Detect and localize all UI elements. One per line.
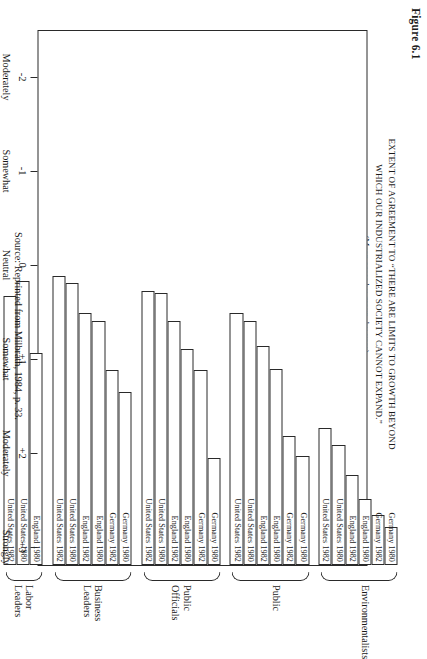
bar-label: England 1980 bbox=[358, 516, 371, 562]
group-brace bbox=[54, 572, 131, 581]
bar-label: Germany 1982 bbox=[371, 512, 384, 562]
bar-label: England 1980 bbox=[269, 516, 282, 562]
figure-title-line-2: WHICH OUR INDUSTRIALIZED SOCIETY CANNOT … bbox=[373, 164, 383, 424]
bar-label: United States 1982 bbox=[141, 499, 154, 562]
axis-tick-word: SomewhatAgree bbox=[0, 338, 11, 381]
axis-tick-word: Neutral bbox=[0, 250, 11, 281]
axis-tick-word: ModeratelyAgree bbox=[0, 430, 11, 477]
axis-tick bbox=[30, 547, 37, 548]
axis-tick-word: ModeratelyDisagree bbox=[0, 54, 11, 101]
plot-area: Germany 1980Germany 1982England 1980Engl… bbox=[38, 31, 366, 565]
axis-tick bbox=[30, 171, 37, 172]
figure-title-line-1: EXTENT OF AGREEMENT TO “THERE ARE LIMITS… bbox=[386, 138, 396, 449]
bar-label: Germany 1980 bbox=[295, 512, 308, 562]
axis-tick-number: +2 bbox=[16, 448, 27, 459]
group-label: PublicOfficials bbox=[169, 585, 193, 620]
plot-frame: Germany 1980Germany 1982England 1980Engl… bbox=[37, 30, 367, 566]
bar-label: United States 1982 bbox=[52, 499, 65, 562]
bar-label: Germany 1982 bbox=[105, 512, 118, 562]
bar-label: United States 1980 bbox=[243, 499, 256, 562]
bar-label: England 1982 bbox=[167, 516, 180, 562]
bar-label: England 1982 bbox=[256, 516, 269, 562]
value-axis: +3StronglyAgree+2ModeratelyAgree+1Somewh… bbox=[36, 30, 37, 566]
source-note: Source: Reprinted from Milbrath, 1984, p… bbox=[12, 232, 23, 420]
group-label: Environmentalists bbox=[358, 585, 370, 659]
axis-tick-word: StronglyAgree bbox=[0, 530, 11, 565]
bar-label: England 1982 bbox=[345, 516, 358, 562]
axis-tick bbox=[30, 265, 37, 266]
bar-label: United States 1980 bbox=[331, 499, 344, 562]
bar-label: United States 1980 bbox=[65, 499, 78, 562]
group-brace bbox=[320, 572, 397, 581]
bar-label: United States 1982 bbox=[318, 499, 331, 562]
group-brace bbox=[143, 572, 220, 581]
group-label: BusinessLeaders bbox=[80, 585, 104, 621]
group-brace bbox=[5, 572, 43, 581]
axis-tick bbox=[30, 77, 37, 78]
axis-tick-number: -1 bbox=[16, 167, 27, 176]
axis-tick-number: +3 bbox=[16, 542, 27, 553]
bar-label: Germany 1980 bbox=[207, 512, 220, 562]
axis-tick-number: -2 bbox=[16, 73, 27, 82]
figure-number: Figure 6.1 bbox=[409, 8, 421, 60]
group-brace bbox=[231, 572, 308, 581]
bar-label: England 1980 bbox=[180, 516, 193, 562]
bar-label: Germany 1982 bbox=[193, 512, 206, 562]
axis-tick-word: SomewhatDisagree bbox=[0, 150, 11, 193]
bar-label: Germany 1980 bbox=[384, 512, 397, 562]
bar-label: Germany 1982 bbox=[282, 512, 295, 562]
group-label: LaborLeaders bbox=[11, 585, 35, 617]
bar-label: United States 1980 bbox=[154, 499, 167, 562]
group-label: Public bbox=[269, 585, 281, 611]
bar-label: England 1982 bbox=[78, 516, 91, 562]
bar-label: England 1980 bbox=[91, 516, 104, 562]
axis-tick bbox=[30, 453, 37, 454]
axis-tick bbox=[30, 359, 37, 360]
bar-label: Germany 1980 bbox=[118, 512, 131, 562]
bar-label: United States 1982 bbox=[229, 499, 242, 562]
